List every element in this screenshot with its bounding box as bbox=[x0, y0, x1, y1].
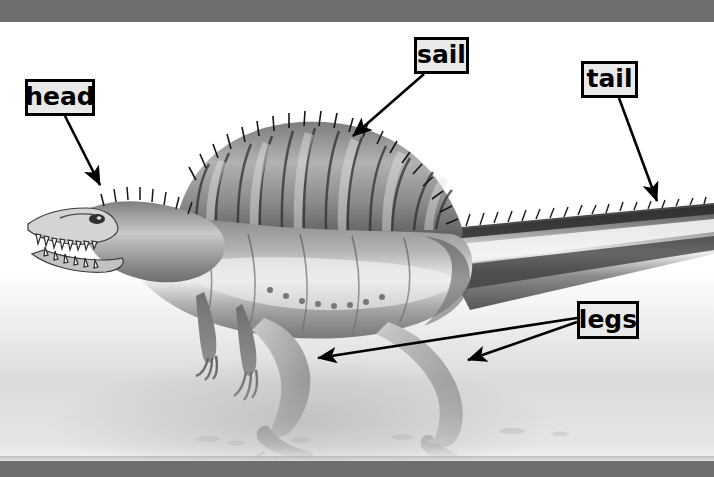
top-gray-band bbox=[0, 0, 714, 22]
sail-part bbox=[176, 111, 463, 238]
label-tail[interactable]: tail bbox=[581, 61, 638, 98]
bottom-gray-band bbox=[0, 461, 714, 477]
label-head[interactable]: head bbox=[25, 79, 95, 116]
label-sail[interactable]: sail bbox=[414, 37, 469, 74]
ground-haze bbox=[0, 271, 714, 461]
labeled-dinosaur-diagram: head sail tail legs bbox=[0, 0, 714, 477]
label-legs[interactable]: legs bbox=[577, 301, 639, 339]
